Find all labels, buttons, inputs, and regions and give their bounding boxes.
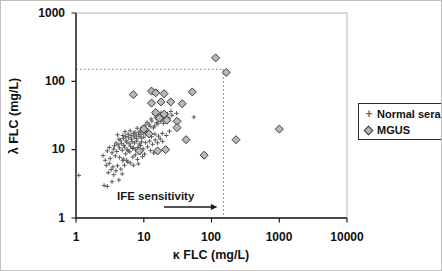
x-tick-label-10000: 10000 [307, 230, 387, 244]
y-tick-label-1: 1 [1, 211, 65, 225]
x-axis-title: κ FLC (mg/L) [111, 248, 311, 262]
y-axis-title: λ FLC (mg/L) [7, 78, 21, 154]
legend-label-mgus: MGUS [377, 124, 410, 136]
legend-entry-mgus: MGUS [364, 122, 442, 138]
legend-entry-normal-sera: + Normal sera [364, 106, 442, 122]
ife-sensitivity-annotation: IFE sensitivity [117, 190, 194, 202]
flc-scatter-figure: 1 10 100 1000 1 10 100 1000 10000 κ FLC … [0, 0, 442, 271]
legend-label-normal-sera: Normal sera [377, 108, 441, 120]
y-tick-label-1000: 1000 [1, 6, 65, 20]
legend: + Normal sera MGUS [358, 103, 442, 140]
diamond-marker-icon [364, 125, 374, 135]
plus-marker-icon: + [364, 109, 374, 119]
